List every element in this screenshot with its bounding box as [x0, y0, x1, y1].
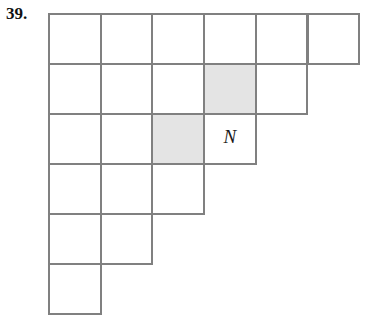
grid-cell-r4-c1 — [48, 163, 102, 215]
grid-cell-r5-c1 — [48, 213, 102, 265]
grid-cell-r3-c1 — [48, 113, 102, 165]
grid-cell-r1-c4 — [203, 13, 257, 65]
grid-cell-r2-c2 — [100, 63, 154, 115]
grid-cell-r4-c3 — [151, 163, 205, 215]
grid-cell-r1-c3 — [151, 13, 205, 65]
grid-cell-r2-c3 — [151, 63, 205, 115]
grid-cell-r2-c1 — [48, 63, 102, 115]
grid-cell-r3-c3 — [151, 113, 205, 165]
staircase-grid: N — [0, 0, 366, 330]
grid-cell-r2-c4 — [203, 63, 257, 115]
figure-root: 39. N — [0, 0, 366, 330]
grid-cell-r3-c4: N — [203, 113, 257, 165]
grid-cell-r6-c1 — [48, 263, 102, 315]
grid-cell-r1-c1 — [48, 13, 102, 65]
grid-cell-r5-c2 — [100, 213, 154, 265]
grid-cell-r2-c5 — [255, 63, 309, 115]
grid-cell-r4-c2 — [100, 163, 154, 215]
grid-cell-r1-c6 — [307, 13, 361, 65]
cell-label-n: N — [205, 127, 255, 146]
grid-cell-r3-c2 — [100, 113, 154, 165]
grid-cell-r1-c2 — [100, 13, 154, 65]
grid-cell-r1-c5 — [255, 13, 309, 65]
